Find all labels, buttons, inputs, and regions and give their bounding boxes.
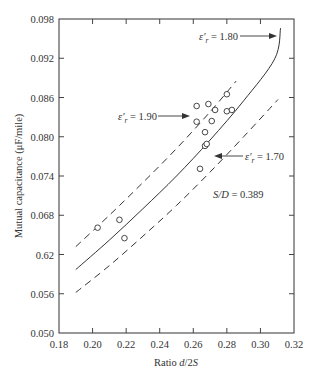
capacitance-chart: 0.180.200.220.240.260.280.300.320.0500.0… xyxy=(0,0,317,374)
svg-text:ε′r = 1.90: ε′r = 1.90 xyxy=(118,111,157,125)
arrow-head-icon xyxy=(214,153,222,159)
y-tick-label: 0.080 xyxy=(30,132,54,143)
annotation-eps-1-90: ε′r = 1.90 xyxy=(118,111,190,125)
y-tick-label: 0.086 xyxy=(30,93,54,104)
y-tick-label: 0.056 xyxy=(30,289,54,300)
x-tick-label: 0.32 xyxy=(285,339,303,350)
data-point-circle-icon xyxy=(224,91,230,97)
y-tick-label: 0.074 xyxy=(30,171,54,182)
x-tick-label: 0.22 xyxy=(117,339,135,350)
x-tick-label: 0.26 xyxy=(184,339,202,350)
data-point-circle-icon xyxy=(194,103,200,109)
y-tick-label: 0.068 xyxy=(30,210,54,221)
x-tick-label: 0.28 xyxy=(218,339,236,350)
y-tick-label: 0.050 xyxy=(30,328,54,339)
x-tick-label: 0.30 xyxy=(251,339,269,350)
data-point-circle-icon xyxy=(212,107,218,113)
data-point-circle-icon xyxy=(229,107,235,113)
annotation-eps-1-70: ε′r = 1.70 xyxy=(214,151,284,165)
annotation-eps-1-80: ε′r = 1.80 xyxy=(199,31,277,45)
svg-text:ε′r = 1.80: ε′r = 1.80 xyxy=(199,31,238,45)
annotation-s-d-ratio: S/D = 0.389 xyxy=(213,189,264,200)
data-points xyxy=(95,91,235,241)
x-tick-label: 0.24 xyxy=(151,339,170,350)
curve-190 xyxy=(76,81,236,247)
data-point-circle-icon xyxy=(202,129,208,135)
data-point-circle-icon xyxy=(194,119,200,125)
arrow-head-icon xyxy=(269,33,277,39)
data-point-circle-icon xyxy=(122,235,128,241)
axis-ticks: 0.180.200.220.240.260.280.300.320.0500.0… xyxy=(30,14,303,350)
curve-180 xyxy=(76,28,281,269)
data-point-circle-icon xyxy=(209,118,215,124)
data-point-circle-icon xyxy=(95,225,101,231)
x-tick-label: 0.18 xyxy=(50,339,68,350)
data-point-circle-icon xyxy=(204,141,210,147)
y-tick-label: 0.62 xyxy=(36,250,54,261)
x-tick-label: 0.20 xyxy=(83,339,101,350)
data-point-circle-icon xyxy=(197,166,203,172)
svg-text:ε′r = 1.70: ε′r = 1.70 xyxy=(245,151,284,165)
data-point-circle-icon xyxy=(117,217,123,223)
arrow-head-icon xyxy=(182,113,190,119)
y-axis-title: Mutual capacitance (μF/mile) xyxy=(13,113,25,238)
y-tick-label: 0.092 xyxy=(30,53,54,64)
data-point-circle-icon xyxy=(206,101,212,107)
y-tick-label: 0.098 xyxy=(30,14,54,25)
x-axis-title: Ratio d/2S xyxy=(154,357,199,368)
